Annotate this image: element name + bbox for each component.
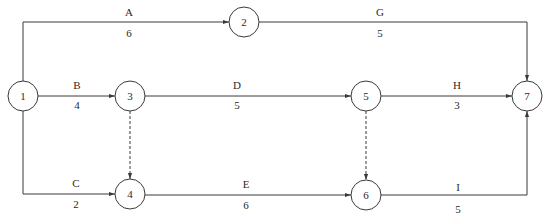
activity-B-name: B: [73, 79, 80, 91]
activity-B-duration: 4: [74, 99, 80, 111]
node-5-label: 5: [363, 90, 369, 102]
activity-I-name: I: [456, 181, 460, 193]
node-7-label: 7: [524, 90, 530, 102]
activity-G-name: G: [376, 6, 384, 18]
activity-A-duration: 6: [126, 27, 132, 39]
node-2-label: 2: [241, 16, 247, 28]
arrow-C: [23, 111, 115, 194]
node-3-label: 3: [127, 90, 133, 102]
activity-D-name: D: [233, 79, 241, 91]
activity-A-name: A: [125, 6, 133, 18]
activity-E-name: E: [243, 178, 250, 190]
activity-E-duration: 6: [243, 199, 249, 211]
activity-H-duration: 3: [454, 99, 460, 111]
activity-G-duration: 5: [377, 27, 383, 39]
arrow-G: [259, 22, 527, 81]
node-4-label: 4: [127, 188, 133, 200]
activity-H-name: H: [453, 79, 461, 91]
activity-C-duration: 2: [73, 198, 79, 210]
network-diagram: 1 2 3 4 5 6 7 A 6 G 5 B 4 D 5 H 3 C 2 E …: [0, 0, 548, 223]
activity-D-duration: 5: [234, 99, 240, 111]
activity-I-duration: 5: [455, 203, 461, 215]
activity-C-name: C: [72, 177, 79, 189]
node-1-label: 1: [20, 90, 26, 102]
node-6-label: 6: [363, 189, 369, 201]
arrow-I: [381, 111, 527, 195]
